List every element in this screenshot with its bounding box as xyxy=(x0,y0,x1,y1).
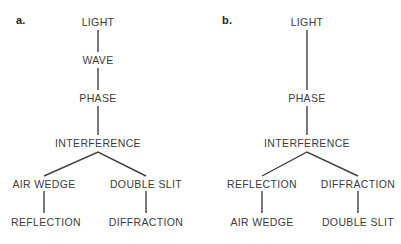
node-light: LIGHT xyxy=(80,17,117,28)
node-right-leaf: DOUBLE SLIT xyxy=(320,217,396,228)
panel-a-connectors xyxy=(0,0,200,244)
panel-b-connectors xyxy=(200,0,401,244)
node-left-mid: REFLECTION xyxy=(225,179,299,190)
node-phase: PHASE xyxy=(77,93,118,104)
node-right-leaf: DIFFRACTION xyxy=(107,217,185,228)
node-interference: INTERFERENCE xyxy=(262,138,352,149)
node-right-mid: DIFFRACTION xyxy=(319,179,397,190)
diagram-panel-a: a. LIGHT WAVE PHASE INTERFERENCE AIR WED… xyxy=(0,0,200,244)
diagram-panel-b: b. LIGHT PHASE INTERFERENCE REFLECTION D… xyxy=(200,0,401,244)
node-wave: WAVE xyxy=(80,55,115,66)
node-left-leaf: AIR WEDGE xyxy=(228,217,295,228)
node-right-mid: DOUBLE SLIT xyxy=(108,179,184,190)
node-left-leaf: REFLECTION xyxy=(9,217,83,228)
node-phase: PHASE xyxy=(286,93,327,104)
link-interference-branches xyxy=(44,152,146,176)
node-interference: INTERFERENCE xyxy=(53,138,143,149)
node-light: LIGHT xyxy=(289,17,326,28)
node-left-mid: AIR WEDGE xyxy=(10,179,77,190)
link-interference-branches xyxy=(262,152,358,176)
